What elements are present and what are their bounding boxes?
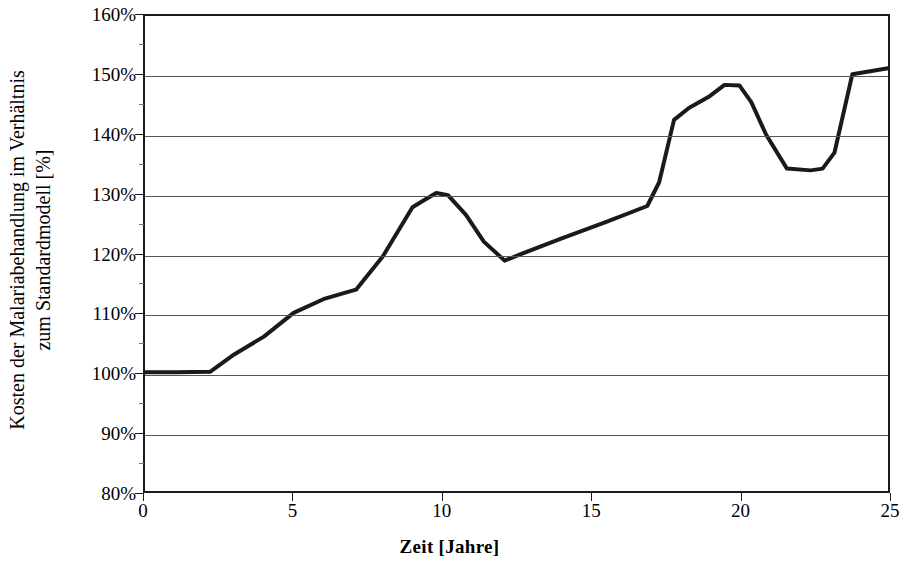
x-axis-tick-label: 0 [138, 500, 148, 522]
y-axis-tick-label: 100% [70, 364, 136, 383]
gridline-horizontal [145, 256, 888, 257]
y-axis-title-line-1: Kosten der Malariabehandlung im Verhältn… [4, 0, 30, 500]
y-axis-minor-tick-mark [139, 463, 144, 464]
y-axis-tick-label: 130% [70, 184, 136, 203]
plot-area [143, 14, 890, 493]
y-axis-tick-labels: 80%90%100%110%120%130%140%150%160% [62, 0, 136, 568]
y-axis-tick-mark [135, 313, 144, 314]
y-axis-minor-tick-mark [139, 44, 144, 45]
x-axis-tick-label: 5 [288, 500, 298, 522]
y-axis-tick-label: 140% [70, 124, 136, 143]
y-axis-tick-label: 160% [70, 5, 136, 24]
y-axis-minor-tick-mark [139, 403, 144, 404]
y-axis-minor-tick-mark [139, 343, 144, 344]
x-axis-tick-label: 20 [731, 500, 750, 522]
x-axis-tick-mark [890, 493, 891, 501]
gridline-horizontal [145, 196, 888, 197]
gridline-horizontal [145, 136, 888, 137]
x-axis-tick-label: 25 [881, 500, 900, 522]
y-axis-minor-tick-mark [139, 224, 144, 225]
y-axis-tick-mark [135, 14, 144, 15]
x-axis-tick-mark [292, 493, 293, 501]
y-axis-title-line-2: zum Standardmodell [%] [30, 0, 56, 500]
y-axis-minor-tick-mark [139, 164, 144, 165]
x-axis-tick-mark [741, 493, 742, 501]
gridline-horizontal [145, 375, 888, 376]
x-axis-title: Zeit [Jahre] [0, 536, 899, 558]
y-axis-tick-mark [135, 194, 144, 195]
y-axis-title: Kosten der Malariabehandlung im Verhältn… [0, 0, 60, 500]
y-axis-tick-mark [135, 134, 144, 135]
y-axis-minor-tick-mark [139, 104, 144, 105]
x-axis-tick-labels: 0510152025 [0, 500, 899, 530]
y-axis-tick-label: 90% [70, 424, 136, 443]
y-axis-minor-tick-mark [139, 283, 144, 284]
gridline-horizontal [145, 76, 888, 77]
x-axis-tick-mark [143, 493, 144, 501]
y-axis-tick-label: 110% [70, 304, 136, 323]
gridline-horizontal [145, 315, 888, 316]
x-axis-tick-mark [442, 493, 443, 501]
data-series-line [145, 16, 888, 491]
y-axis-tick-mark [135, 373, 144, 374]
y-axis-tick-label: 150% [70, 64, 136, 83]
gridline-horizontal [145, 435, 888, 436]
x-axis-tick-label: 15 [582, 500, 601, 522]
x-axis-tick-mark [591, 493, 592, 501]
y-axis-tick-label: 120% [70, 244, 136, 263]
y-axis-tick-mark [135, 74, 144, 75]
y-axis-tick-mark [135, 254, 144, 255]
y-axis-tick-mark [135, 433, 144, 434]
x-axis-tick-label: 10 [432, 500, 451, 522]
